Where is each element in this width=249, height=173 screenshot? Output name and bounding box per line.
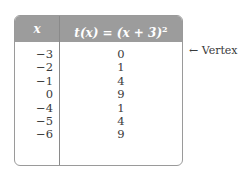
vertex-label: Vertex (202, 44, 238, 57)
header-function-text: t(x) = (x + 3) (74, 26, 162, 40)
x-cell: −6 (15, 128, 53, 141)
vertex-annotation: ← Vertex (189, 44, 238, 57)
t-cell: 0 (60, 48, 182, 61)
header-function: t(x) = (x + 3)2 (60, 16, 182, 42)
t-cell: 4 (60, 115, 182, 128)
x-cell: −4 (15, 102, 53, 115)
t-cell: 9 (60, 88, 182, 101)
t-cell: 1 (60, 102, 182, 115)
header-function-exponent: 2 (162, 24, 168, 34)
t-column: 0 1 4 9 1 4 9 (60, 48, 182, 142)
x-cell: −2 (15, 61, 53, 74)
x-cell: −1 (15, 75, 53, 88)
t-cell: 9 (60, 128, 182, 141)
table-header: x t(x) = (x + 3)2 (15, 16, 182, 42)
values-table: x t(x) = (x + 3)2 −3 −2 −1 0 −4 −5 −6 0 … (14, 15, 183, 166)
left-arrow-icon: ← (189, 44, 198, 57)
x-cell: 0 (15, 88, 53, 101)
header-x: x (15, 16, 59, 42)
x-cell: −3 (15, 48, 53, 61)
x-cell: −5 (15, 115, 53, 128)
t-cell: 1 (60, 61, 182, 74)
x-column: −3 −2 −1 0 −4 −5 −6 (15, 48, 53, 142)
t-cell: 4 (60, 75, 182, 88)
